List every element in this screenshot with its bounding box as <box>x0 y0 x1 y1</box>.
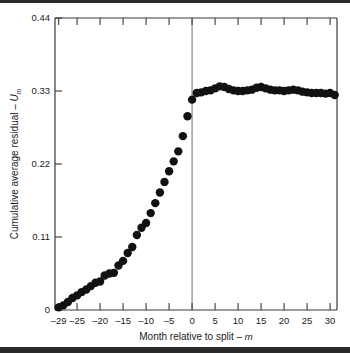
data-point <box>156 188 164 196</box>
x-axis-symbol: m <box>245 331 253 342</box>
plot-area-background <box>55 18 337 310</box>
figure-page: 00.110.220.330.44 –29–25–20–15–10–505101… <box>0 0 350 353</box>
y-axis-tick-label: 0.11 <box>32 231 50 242</box>
y-axis-tick-labels: 00.110.220.330.44 <box>32 12 51 315</box>
x-axis-tick-label: 5 <box>212 315 217 326</box>
scatter-chart: 00.110.220.330.44 –29–25–20–15–10–505101… <box>0 3 350 347</box>
x-axis-tick-labels: –29–25–20–15–10–5051015202530 <box>51 315 336 326</box>
data-point <box>174 147 182 155</box>
y-axis-title: Cumulative average residual – Um <box>9 88 22 239</box>
data-point <box>169 157 177 165</box>
y-axis-tick-label: 0.44 <box>32 12 51 23</box>
y-axis-tick-label: 0.22 <box>32 158 51 169</box>
bottom-rule <box>0 347 350 353</box>
x-axis-tick-label: –25 <box>69 315 85 326</box>
data-point <box>160 178 168 186</box>
chart-figure: 00.110.220.330.44 –29–25–20–15–10–505101… <box>0 3 350 347</box>
x-axis-tick-label: –20 <box>92 315 108 326</box>
data-point <box>146 209 154 217</box>
data-point <box>179 132 187 140</box>
data-point <box>110 269 118 277</box>
x-axis-tick-label: 15 <box>256 315 267 326</box>
x-axis-tick-label: –15 <box>115 315 131 326</box>
data-point <box>133 231 141 239</box>
x-axis-tick-label: 20 <box>279 315 290 326</box>
x-axis-tick-label: 10 <box>233 315 244 326</box>
x-axis-title: Month relative to split – m <box>139 331 253 342</box>
x-axis-tick-label: 0 <box>189 315 194 326</box>
x-axis-tick-label: –29 <box>51 315 67 326</box>
y-axis-tick-label: 0 <box>45 304 50 315</box>
x-axis-tick-label: 25 <box>302 315 313 326</box>
data-point <box>128 243 136 251</box>
data-point <box>151 199 159 207</box>
data-point <box>165 167 173 175</box>
data-point <box>119 257 127 265</box>
data-point <box>330 91 338 99</box>
x-axis-tick-label: –5 <box>164 315 175 326</box>
x-axis-tick-label: 30 <box>325 315 336 326</box>
data-point <box>142 219 150 227</box>
y-axis-tick-label: 0.33 <box>32 85 51 96</box>
y-axis-symbol-subscript: m <box>15 88 22 94</box>
x-axis-tick-label: –10 <box>138 315 154 326</box>
data-point <box>183 112 191 120</box>
